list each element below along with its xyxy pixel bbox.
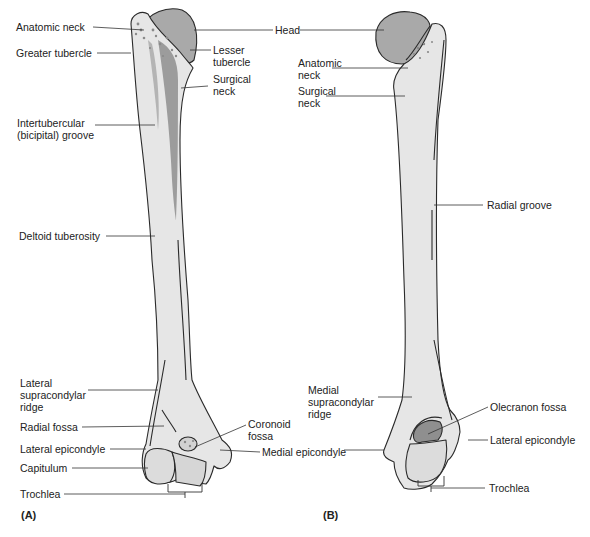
- label-coronoid-fossa: Coronoid fossa: [248, 418, 291, 442]
- label-lesser-tubercle: Lesser tubercle: [213, 44, 250, 68]
- label-anatomic-neck-b: Anatomic neck: [298, 57, 342, 81]
- label-trochlea-a: Trochlea: [20, 488, 60, 500]
- capitulum-shape: [145, 449, 175, 485]
- label-trochlea-b: Trochlea: [489, 482, 529, 494]
- label-olecranon-fossa: Olecranon fossa: [490, 401, 566, 413]
- panel-label-b: (B): [323, 509, 338, 521]
- label-capitulum: Capitulum: [20, 462, 67, 474]
- label-lateral-supracondylar-ridge: Lateral supracondylar ridge: [20, 377, 86, 413]
- label-radial-groove: Radial groove: [487, 199, 552, 211]
- label-deltoid-tuberosity: Deltoid tuberosity: [19, 230, 100, 242]
- label-surgical-neck-b: Surgical neck: [298, 85, 336, 109]
- label-medial-supracondylar-ridge: Medial supracondylar ridge: [308, 384, 374, 420]
- coronoid-fossa-shape: [179, 437, 197, 451]
- trochlea-shape-b: [406, 440, 447, 482]
- label-anatomic-neck-a: Anatomic neck: [16, 21, 85, 33]
- label-lateral-epicondyle-b: Lateral epicondyle: [490, 434, 575, 446]
- label-intertubercular-groove: Intertubercular (bicipital) groove: [17, 117, 94, 141]
- label-medial-epicondyle: Medial epicondyle: [262, 446, 346, 458]
- humerus-posterior-view: [376, 12, 460, 492]
- label-surgical-neck-a: Surgical neck: [213, 73, 251, 97]
- shaft-b: [384, 24, 460, 490]
- label-head: Head: [275, 24, 300, 36]
- label-radial-fossa: Radial fossa: [20, 421, 78, 433]
- label-lateral-epicondyle-a: Lateral epicondyle: [20, 443, 105, 455]
- label-greater-tubercle: Greater tubercle: [16, 47, 92, 59]
- panel-label-a: (A): [21, 509, 36, 521]
